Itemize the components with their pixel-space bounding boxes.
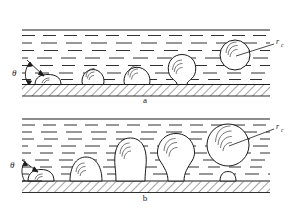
panel-b-radius-symbol: r — [276, 122, 280, 131]
panel-b-bubble-1 — [28, 170, 54, 182]
panel-b-bubble-3 — [115, 138, 147, 181]
panel-a-radius-symbol: r — [276, 37, 280, 46]
panel-a-label: a — [143, 95, 147, 105]
panel-b-label: b — [143, 193, 148, 203]
bubble-nucleation-diagram: r c θ a — [0, 0, 293, 209]
figure-root: r c θ a — [0, 0, 293, 209]
panel-a-radius-subscript: c — [281, 42, 284, 48]
panel-b-radius-subscript: c — [281, 127, 284, 133]
panel-a-bubble-5 — [220, 40, 250, 70]
panel-b-theta-label: θ — [10, 160, 15, 170]
panel-a: r c θ a — [12, 30, 284, 105]
panel-a-bubble-2 — [82, 69, 104, 85]
panel-b-bubble-6 — [220, 172, 236, 182]
panel-a-theta-label: θ — [12, 68, 17, 78]
panel-a-bubble-1 — [35, 75, 61, 85]
panel-a-bubble-3 — [124, 66, 150, 85]
panel-b-bubble-5 — [207, 124, 249, 166]
panel-b-bubble-2 — [70, 157, 102, 181]
panel-b-wall — [22, 181, 270, 193]
panel-a-bubble-4 — [168, 55, 196, 85]
panel-b: r c θ b — [10, 119, 284, 203]
